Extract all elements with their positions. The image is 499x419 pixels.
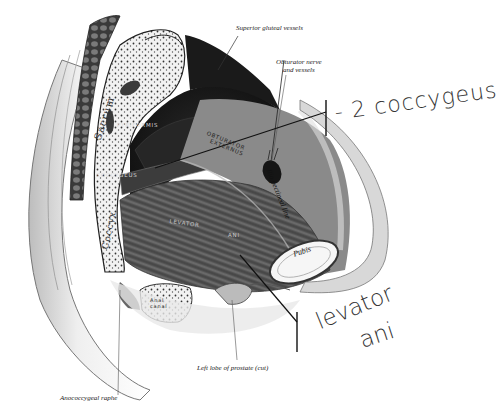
- label-anal-canal: Anal canal: [150, 297, 167, 309]
- label-ani: ANI: [228, 232, 240, 238]
- label-obturator-line1: Obturator nerve: [276, 58, 322, 66]
- prostate-lobe: [215, 283, 252, 304]
- label-anococcygeal-raphe: Anococcygeal raphe: [60, 394, 117, 402]
- label-obturator-nerve: Obturator nerve and vessels: [276, 58, 322, 74]
- label-coccygeus: COCCYGEUS: [96, 172, 138, 178]
- label-obturator-line2: and vessels: [276, 66, 322, 74]
- label-pyriformis: PYRIFORMIS: [117, 122, 158, 128]
- label-left-lobe-prostate: Left lobe of prostate (cut): [197, 364, 268, 372]
- label-superior-gluteal-vessels: Superior gluteal vessels: [236, 24, 303, 32]
- label-anal-canal-line2: canal: [150, 303, 167, 309]
